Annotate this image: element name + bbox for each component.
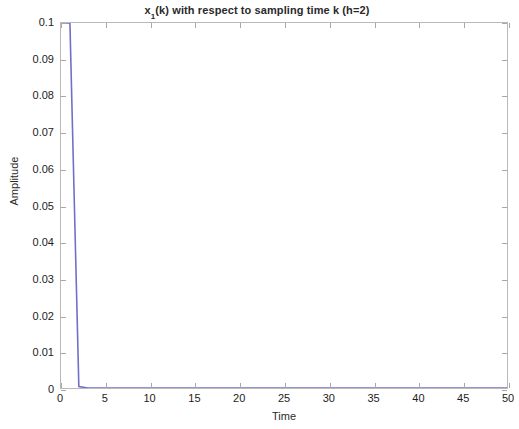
y-tick-mark [61, 60, 66, 61]
chart-title-base: x [145, 4, 151, 16]
y-tick-mark-right [502, 353, 507, 354]
y-tick-label: 0.09 [33, 53, 54, 65]
x-tick-mark-top [419, 23, 420, 28]
chart-title-rest: (k) with respect to sampling time k (h=2… [155, 4, 369, 16]
x-tick-label: 20 [233, 392, 245, 404]
y-tick-mark [61, 353, 66, 354]
x-tick-mark-top [195, 23, 196, 28]
y-tick-label: 0.05 [33, 200, 54, 212]
y-tick-mark-right [502, 60, 507, 61]
chart-title-subscript: 1 [151, 12, 156, 21]
x-tick-mark [240, 383, 241, 388]
x-tick-label: 30 [323, 392, 335, 404]
data-series-line [61, 23, 507, 388]
y-tick-mark [61, 170, 66, 171]
y-tick-mark [61, 280, 66, 281]
y-tick-label: 0.06 [33, 163, 54, 175]
x-tick-mark [151, 383, 152, 388]
y-tick-mark [61, 133, 66, 134]
chart-title: x1(k) with respect to sampling time k (h… [0, 4, 514, 19]
y-tick-mark-right [502, 96, 507, 97]
x-tick-label: 5 [102, 392, 108, 404]
y-tick-mark [61, 243, 66, 244]
y-tick-mark [61, 207, 66, 208]
x-tick-mark-top [285, 23, 286, 28]
y-tick-label: 0.08 [33, 89, 54, 101]
y-tick-mark [61, 96, 66, 97]
plot-canvas [61, 23, 507, 388]
x-tick-label: 45 [457, 392, 469, 404]
x-tick-label: 40 [412, 392, 424, 404]
x-tick-mark-top [330, 23, 331, 28]
x-tick-mark [195, 383, 196, 388]
x-tick-mark-top [375, 23, 376, 28]
y-tick-mark-right [502, 280, 507, 281]
x-tick-mark [106, 383, 107, 388]
y-tick-mark-right [502, 133, 507, 134]
y-tick-label: 0.07 [33, 126, 54, 138]
x-tick-label: 10 [143, 392, 155, 404]
x-tick-label: 50 [502, 392, 514, 404]
x-tick-mark-top [106, 23, 107, 28]
y-tick-mark [61, 390, 66, 391]
y-tick-mark-right [502, 170, 507, 171]
x-tick-mark [509, 383, 510, 388]
y-tick-mark-right [502, 317, 507, 318]
y-tick-mark [61, 317, 66, 318]
y-tick-mark-right [502, 207, 507, 208]
y-tick-mark-right [502, 390, 507, 391]
x-tick-label: 15 [188, 392, 200, 404]
x-tick-mark [419, 383, 420, 388]
x-tick-label: 25 [278, 392, 290, 404]
x-tick-mark [285, 383, 286, 388]
y-tick-label: 0 [48, 383, 54, 395]
y-tick-label: 0.03 [33, 273, 54, 285]
y-tick-label: 0.02 [33, 310, 54, 322]
x-axis-tick-labels: 05101520253035404550 [60, 392, 514, 408]
x-tick-label: 35 [367, 392, 379, 404]
x-tick-mark-top [464, 23, 465, 28]
y-tick-mark-right [502, 243, 507, 244]
x-tick-mark [375, 383, 376, 388]
y-axis-title: Amplitude [8, 141, 20, 221]
x-tick-mark [330, 383, 331, 388]
y-tick-label: 0.01 [33, 346, 54, 358]
x-tick-mark-top [509, 23, 510, 28]
x-tick-label: 0 [57, 392, 63, 404]
y-tick-label: 0.04 [33, 236, 54, 248]
x-tick-mark [61, 383, 62, 388]
x-tick-mark [464, 383, 465, 388]
plot-area [60, 22, 508, 389]
x-tick-mark-top [151, 23, 152, 28]
x-tick-mark-top [240, 23, 241, 28]
x-axis-title: Time [60, 410, 508, 422]
y-tick-mark-right [502, 23, 507, 24]
x-tick-mark-top [61, 23, 62, 28]
